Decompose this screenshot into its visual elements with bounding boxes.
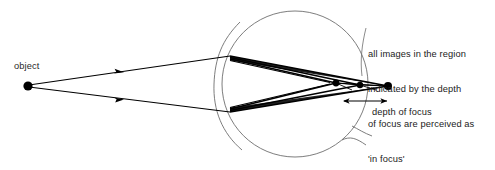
annotation-line-3: of focus are perceived as bbox=[368, 119, 494, 131]
mid-focus-point bbox=[357, 82, 363, 88]
refracted-ray-bundle bbox=[230, 56, 388, 112]
annotation-line-4: 'in focus' bbox=[368, 154, 494, 166]
cornea-arc bbox=[214, 22, 242, 150]
optic-nerve-lower bbox=[342, 138, 366, 145]
annotation-leader-line bbox=[361, 28, 366, 76]
annotation-line-1: all images in the region bbox=[368, 49, 494, 61]
object-label: object bbox=[14, 61, 39, 73]
depth-of-focus-label: depth of focus bbox=[372, 107, 432, 119]
depth-of-focus-annotation: all images in the region indicated by th… bbox=[368, 26, 494, 170]
incident-ray-group bbox=[29, 56, 230, 112]
incident-ray-upper bbox=[29, 56, 230, 85]
depth-of-focus-diagram: object all images in the region indicate… bbox=[0, 0, 495, 170]
annotation-line-2: indicated by the depth bbox=[368, 84, 494, 96]
incident-ray-lower bbox=[29, 87, 230, 112]
near-focus-point bbox=[333, 80, 340, 87]
object-point-marker bbox=[23, 81, 32, 90]
